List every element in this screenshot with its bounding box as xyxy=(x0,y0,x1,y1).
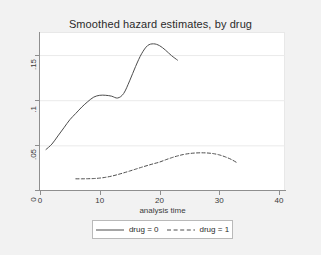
chart-legend: drug = 0 drug = 1 xyxy=(92,220,233,239)
series-line-drug-0 xyxy=(46,44,177,150)
x-tick-label: 20 xyxy=(150,196,170,205)
plot-area xyxy=(40,32,285,190)
x-tick-mark xyxy=(40,191,41,195)
chart-title: Smoothed hazard estimates, by drug xyxy=(0,18,321,30)
x-tick-mark xyxy=(100,191,101,195)
y-tick-label: .15 xyxy=(29,53,38,75)
legend-label-drug-0: drug = 0 xyxy=(129,225,159,234)
series-lines xyxy=(46,44,237,179)
legend-key-solid-icon xyxy=(96,226,124,234)
legend-entry-drug-1: drug = 1 xyxy=(167,225,230,234)
y-tick-label: .05 xyxy=(29,143,38,165)
y-tick-label: .1 xyxy=(29,98,38,120)
x-tick-label: 40 xyxy=(269,196,289,205)
gridlines xyxy=(40,56,285,146)
legend-key-dashed-icon xyxy=(167,226,195,234)
x-tick-mark xyxy=(160,191,161,195)
x-axis-line xyxy=(39,190,286,191)
chart-figure: Smoothed hazard estimates, by drug 0.05.… xyxy=(0,0,321,255)
legend-entry-drug-0: drug = 0 xyxy=(96,225,159,234)
series-line-drug-1 xyxy=(76,153,237,179)
x-tick-label: 10 xyxy=(90,196,110,205)
x-tick-mark xyxy=(279,191,280,195)
x-tick-label: 30 xyxy=(209,196,229,205)
x-axis-title: analysis time xyxy=(40,206,285,215)
legend-label-drug-1: drug = 1 xyxy=(200,225,230,234)
y-axis-line xyxy=(39,32,40,191)
x-tick-mark xyxy=(219,191,220,195)
x-tick-label: 0 xyxy=(30,196,50,205)
plot-svg xyxy=(40,33,285,191)
